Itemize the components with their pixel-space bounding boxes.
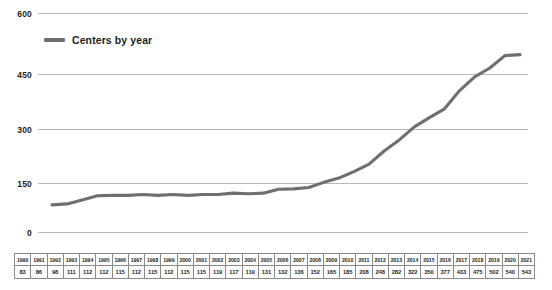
table-cell-value-1992: 98 [47, 266, 63, 279]
table-header-year-1995: 1995 [96, 254, 112, 266]
table-header-year-1996: 1996 [112, 254, 128, 266]
table-cell-value-2014: 322 [405, 266, 421, 279]
table-cell-value-1994: 112 [80, 266, 96, 279]
table-header-year-2000: 2000 [177, 254, 193, 266]
table-header-year-2007: 2007 [291, 254, 307, 266]
table-header-year-2003: 2003 [226, 254, 242, 266]
data-table-wrapper: 1990199119921993199419951996199719981999… [14, 253, 535, 279]
table-cell-value-2010: 185 [340, 266, 356, 279]
table-header-year-2004: 2004 [242, 254, 258, 266]
table-row-values: 8386981111121121151121151121151151191171… [15, 266, 535, 279]
table-cell-value-2001: 115 [193, 266, 209, 279]
table-cell-value-2012: 248 [372, 266, 388, 279]
table-header-year-2012: 2012 [372, 254, 388, 266]
table-cell-value-2019: 502 [486, 266, 502, 279]
table-cell-value-2020: 540 [502, 266, 518, 279]
chart-legend: Centers by year [44, 34, 152, 46]
table-header-year-2001: 2001 [193, 254, 209, 266]
table-cell-value-2015: 350 [421, 266, 437, 279]
table-cell-value-1995: 112 [96, 266, 112, 279]
table-header-year-2010: 2010 [340, 254, 356, 266]
table-header-year-2013: 2013 [388, 254, 404, 266]
table-header-year-2015: 2015 [421, 254, 437, 266]
table-row-years: 1990199119921993199419951996199719981999… [15, 254, 535, 266]
table-header-year-2014: 2014 [405, 254, 421, 266]
table-header-year-1997: 1997 [128, 254, 144, 266]
table-header-year-2011: 2011 [356, 254, 372, 266]
table-header-year-2020: 2020 [502, 254, 518, 266]
table-cell-value-1993: 111 [63, 266, 79, 279]
table-header-year-2019: 2019 [486, 254, 502, 266]
table-cell-value-2017: 433 [453, 266, 469, 279]
table-cell-value-2016: 377 [437, 266, 453, 279]
table-header-year-2006: 2006 [275, 254, 291, 266]
data-table: 1990199119921993199419951996199719981999… [14, 253, 535, 279]
table-header-year-2021: 2021 [518, 254, 534, 266]
legend-line-swatch [44, 38, 65, 42]
table-header-year-1994: 1994 [80, 254, 96, 266]
table-cell-value-2003: 117 [226, 266, 242, 279]
table-cell-value-2007: 136 [291, 266, 307, 279]
table-header-year-2002: 2002 [210, 254, 226, 266]
table-header-year-2017: 2017 [453, 254, 469, 266]
table-cell-value-1996: 115 [112, 266, 128, 279]
table-cell-value-2018: 475 [470, 266, 486, 279]
table-header-year-1992: 1992 [47, 254, 63, 266]
table-cell-value-1999: 112 [161, 266, 177, 279]
table-cell-value-2006: 132 [275, 266, 291, 279]
table-cell-value-2005: 131 [258, 266, 274, 279]
chart-page: 600 450 300 150 0 Centers by year 199019… [0, 0, 552, 290]
table-cell-value-2013: 282 [388, 266, 404, 279]
plot-area: 600 450 300 150 0 Centers by year [0, 0, 552, 245]
table-cell-value-2004: 119 [242, 266, 258, 279]
table-header-year-2018: 2018 [470, 254, 486, 266]
table-header-year-1999: 1999 [161, 254, 177, 266]
table-cell-value-2021: 543 [518, 266, 534, 279]
table-header-year-2005: 2005 [258, 254, 274, 266]
table-cell-value-1997: 112 [128, 266, 144, 279]
table-cell-value-2011: 208 [356, 266, 372, 279]
table-header-year-1998: 1998 [145, 254, 161, 266]
table-cell-value-2002: 119 [210, 266, 226, 279]
table-cell-value-1990: 83 [15, 266, 31, 279]
table-header-year-1993: 1993 [63, 254, 79, 266]
table-header-year-1991: 1991 [31, 254, 47, 266]
table-header-year-2009: 2009 [323, 254, 339, 266]
table-header-year-1990: 1990 [15, 254, 31, 266]
table-cell-value-2000: 115 [177, 266, 193, 279]
table-cell-value-2009: 165 [323, 266, 339, 279]
table-header-year-2008: 2008 [307, 254, 323, 266]
table-header-year-2016: 2016 [437, 254, 453, 266]
table-cell-value-1998: 115 [145, 266, 161, 279]
table-cell-value-2008: 152 [307, 266, 323, 279]
table-cell-value-1991: 86 [31, 266, 47, 279]
legend-label: Centers by year [72, 34, 152, 46]
